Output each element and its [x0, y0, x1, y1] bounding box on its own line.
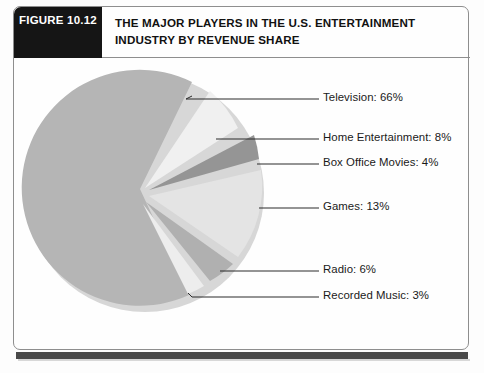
figure-header: FIGURE 10.12 THE MAJOR PLAYERS IN THE U.…	[14, 7, 470, 58]
pie-label-games: Games: 13%	[323, 200, 389, 212]
bottom-accent-bar	[16, 352, 468, 359]
figure-title-line-2: INDUSTRY BY REVENUE SHARE	[115, 32, 460, 49]
pie-label-television: Television: 66%	[323, 91, 403, 103]
pie-chart-area: Television: 66% Home Entertainment: 8% B…	[14, 58, 468, 349]
figure-number-label: FIGURE 10.12	[19, 14, 97, 26]
pie-label-home-entertainment: Home Entertainment: 8%	[323, 131, 451, 143]
pie-label-recorded-music: Recorded Music: 3%	[323, 289, 429, 301]
bottom-accent-bar-shadow	[18, 359, 470, 361]
figure-container: FIGURE 10.12 THE MAJOR PLAYERS IN THE U.…	[0, 0, 484, 373]
pie-label-box-office-movies: Box Office Movies: 4%	[323, 156, 438, 168]
figure-number-box: FIGURE 10.12	[14, 7, 102, 58]
figure-title-line-1: THE MAJOR PLAYERS IN THE U.S. ENTERTAINM…	[115, 16, 415, 29]
figure-frame: FIGURE 10.12 THE MAJOR PLAYERS IN THE U.…	[13, 6, 469, 350]
figure-title: THE MAJOR PLAYERS IN THE U.S. ENTERTAINM…	[115, 15, 460, 48]
pie-label-radio: Radio: 6%	[323, 263, 376, 275]
